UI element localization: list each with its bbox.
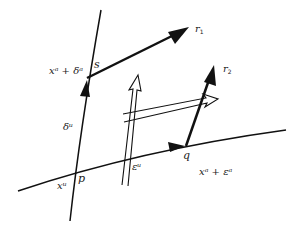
label-r1: r1 <box>195 23 204 35</box>
label-delta: δᵘ <box>63 121 73 132</box>
label-x-plus-delta: xᵃ + δᵃ <box>49 65 83 76</box>
r2-arrowhead-icon <box>204 65 216 86</box>
label-r2: r2 <box>223 63 232 75</box>
vector-r1 <box>87 32 180 78</box>
r2-subscript: 2 <box>228 68 232 75</box>
diagram-canvas: s xᵃ + δᵃ δᵘ p xᵘ εᵘ q xᵃ + εᵃ r1 r2 <box>0 0 303 235</box>
delta-curve <box>70 10 101 221</box>
label-q: q <box>183 149 190 162</box>
hollow-arrow-horizontal <box>123 94 218 122</box>
label-s: s <box>94 58 100 71</box>
label-x-plus-epsilon: xᵃ + εᵃ <box>199 166 232 177</box>
label-p: p <box>78 172 85 185</box>
vector-r2 <box>186 74 211 146</box>
label-x: xᵘ <box>57 180 67 191</box>
r1-subscript: 1 <box>200 28 204 35</box>
label-epsilon: εᵘ <box>132 161 141 172</box>
r1-arrowhead-icon <box>168 27 189 44</box>
